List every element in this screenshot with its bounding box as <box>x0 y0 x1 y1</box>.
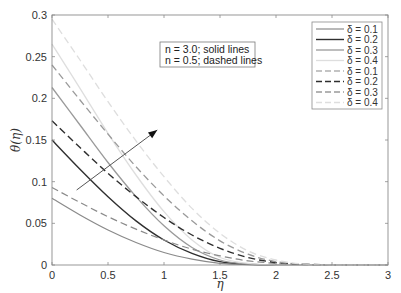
x-tick-label: 2 <box>273 269 279 281</box>
legend-label: δ = 0.3 <box>347 45 378 56</box>
legend-label: δ = 0.2 <box>347 76 378 87</box>
chart: 00.511.522.5300.050.10.150.20.250.3 n = … <box>0 0 401 293</box>
y-tick-label: 0.3 <box>32 9 47 21</box>
x-tick-label: 0.5 <box>100 269 115 281</box>
y-tick-label: 0.25 <box>26 51 47 63</box>
y-tick-label: 0.05 <box>26 217 47 229</box>
y-tick-label: 0 <box>41 259 47 271</box>
x-tick-label: 3 <box>385 269 391 281</box>
legend-label: δ = 0.1 <box>347 24 378 35</box>
legend: δ = 0.1δ = 0.2δ = 0.3δ = 0.4δ = 0.1δ = 0… <box>312 22 382 109</box>
legend-label: δ = 0.4 <box>347 97 378 108</box>
y-tick-label: 0.1 <box>32 176 47 188</box>
legend-label: δ = 0.2 <box>347 34 378 45</box>
x-tick-label: 1 <box>161 269 167 281</box>
legend-label: δ = 0.3 <box>347 87 378 98</box>
x-tick-label: 0 <box>49 269 55 281</box>
y-tick-label: 0.15 <box>26 134 47 146</box>
y-axis-label: θ(η) <box>9 128 23 152</box>
x-axis-label: η <box>216 277 224 291</box>
legend-label: δ = 0.4 <box>347 55 378 66</box>
x-tick-label: 2.5 <box>324 269 339 281</box>
annotation-line-2: n = 0.5; dashed lines <box>165 54 262 66</box>
y-tick-label: 0.2 <box>32 92 47 104</box>
legend-label: δ = 0.1 <box>347 66 378 77</box>
